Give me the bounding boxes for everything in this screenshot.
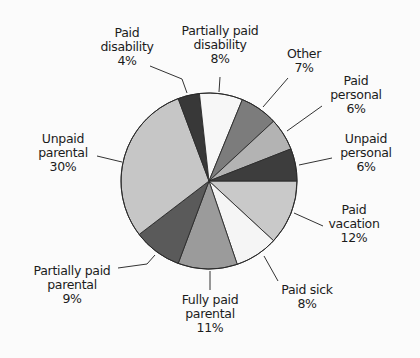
label-partially-paid-parental: Partially paid parental 9% xyxy=(22,264,122,306)
label-paid-disability: Paid disability 4% xyxy=(92,26,162,68)
leader-other xyxy=(263,78,288,107)
label-unpaid-parental: Unpaid parental 30% xyxy=(28,132,98,174)
leader-partially-paid-parental xyxy=(118,255,155,268)
label-unpaid-personal: Unpaid personal 6% xyxy=(330,132,402,174)
leader-unpaid-parental xyxy=(97,156,122,162)
leader-partially-paid-disability xyxy=(219,77,220,92)
leader-paid-disability xyxy=(150,66,187,93)
label-other: Other 7% xyxy=(276,47,332,75)
label-paid-personal: Paid personal 6% xyxy=(320,74,392,116)
leader-paid-sick xyxy=(264,256,278,281)
label-partially-paid-disability: Partially paid disability 8% xyxy=(170,24,270,66)
label-paid-sick: Paid sick 8% xyxy=(270,283,344,311)
label-paid-vacation: Paid vacation 12% xyxy=(319,203,389,245)
pie-slices xyxy=(121,93,297,269)
leader-paid-personal xyxy=(287,106,322,131)
label-fully-paid-parental: Fully paid parental 11% xyxy=(172,293,248,335)
leader-unpaid-personal xyxy=(299,158,332,165)
